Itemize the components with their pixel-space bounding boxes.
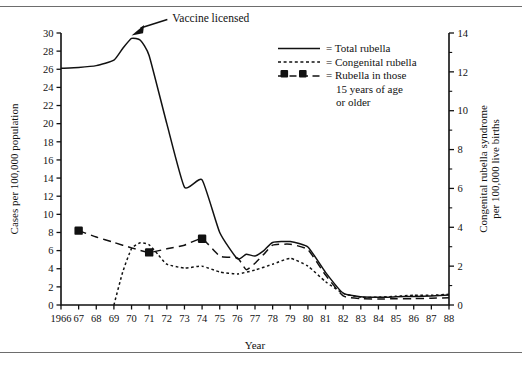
series-marker-square bbox=[198, 235, 206, 243]
chart-canvas: 1966676869707172737475767778798081828384… bbox=[0, 0, 522, 365]
legend-label: or older bbox=[336, 96, 371, 108]
x-tick-label: 80 bbox=[303, 313, 314, 324]
rubella-incidence-chart: 1966676869707172737475767778798081828384… bbox=[0, 0, 522, 365]
x-tick-labels: 1966676869707172737475767778798081828384… bbox=[51, 313, 455, 324]
x-tick-label: 73 bbox=[179, 313, 190, 324]
y-tick-label-left: 14 bbox=[43, 173, 54, 184]
legend-swatch-square bbox=[281, 70, 289, 78]
x-tick-label: 74 bbox=[197, 313, 208, 324]
legend-label: = Total rubella bbox=[326, 42, 391, 54]
x-tick-label: 88 bbox=[444, 313, 455, 324]
y-tick-label-left: 4 bbox=[48, 263, 54, 274]
y-tick-label-left: 16 bbox=[43, 155, 54, 166]
y-tick-label-left: 0 bbox=[48, 300, 53, 311]
y-tick-label-left: 26 bbox=[43, 64, 54, 75]
x-tick-label: 85 bbox=[391, 313, 402, 324]
x-tick-label: 83 bbox=[356, 313, 367, 324]
y-tick-label-right: 0 bbox=[458, 300, 463, 311]
x-tick-label: 75 bbox=[214, 313, 225, 324]
y-tick-label-left: 18 bbox=[43, 137, 54, 148]
marker-group bbox=[74, 226, 206, 256]
y-tick-label-left: 8 bbox=[48, 227, 53, 238]
y-tick-label-left: 10 bbox=[43, 209, 54, 220]
y-tick-label-left: 30 bbox=[43, 28, 54, 39]
x-tick-label: 70 bbox=[126, 313, 137, 324]
x-tick-label: 79 bbox=[285, 313, 296, 324]
y-tick-label-left: 20 bbox=[43, 118, 54, 129]
legend-label: = Rubella in those bbox=[326, 69, 407, 81]
series-marker-square bbox=[74, 226, 82, 234]
y-axis-title-left: Cases per 100,000 population bbox=[8, 103, 20, 234]
y-tick-label-right: 14 bbox=[458, 28, 469, 39]
y-tick-labels-right: 02468101214 bbox=[458, 28, 469, 311]
legend-label: = Congenital rubella bbox=[326, 56, 417, 68]
series-line-dotted bbox=[114, 243, 449, 305]
x-axis-title: Year bbox=[245, 339, 266, 351]
annotation-group: Vaccine licensed bbox=[132, 12, 250, 35]
x-tick-label: 72 bbox=[162, 313, 173, 324]
x-tick-label: 86 bbox=[408, 313, 419, 324]
x-tick-label: 1966 bbox=[51, 313, 72, 324]
series-marker-square bbox=[145, 248, 153, 256]
x-tick-label: 77 bbox=[250, 313, 261, 324]
legend-label: 15 years of age bbox=[336, 83, 403, 95]
annotation-label: Vaccine licensed bbox=[172, 12, 249, 24]
legend-swatch-square bbox=[299, 70, 307, 78]
legend: = Total rubella= Congenital rubella= Rub… bbox=[278, 42, 417, 108]
y-axis-title-right-line1: Congenital rubella syndrome bbox=[477, 105, 489, 233]
y-tick-label-right: 4 bbox=[458, 222, 464, 233]
x-tick-label: 84 bbox=[373, 313, 384, 324]
y-tick-labels-left: 024681012141618202224262830 bbox=[43, 28, 54, 311]
y-tick-label-left: 24 bbox=[43, 82, 54, 93]
y-tick-label-right: 12 bbox=[458, 67, 469, 78]
series-line-dashed-with-squares bbox=[79, 231, 449, 299]
x-tick-label: 67 bbox=[73, 313, 84, 324]
y-tick-label-right: 2 bbox=[458, 261, 463, 272]
y-tick-label-right: 10 bbox=[458, 105, 469, 116]
x-tick-label: 68 bbox=[91, 313, 102, 324]
x-tick-label: 87 bbox=[426, 313, 437, 324]
x-tick-label: 76 bbox=[232, 313, 243, 324]
x-tick-label: 81 bbox=[320, 313, 331, 324]
x-tick-label: 69 bbox=[109, 313, 120, 324]
annotation-arrow-head bbox=[132, 25, 145, 35]
y-tick-label-left: 22 bbox=[43, 100, 54, 111]
y-tick-label-right: 8 bbox=[458, 144, 463, 155]
annotation-arrow-shaft bbox=[141, 19, 168, 27]
x-tick-label: 82 bbox=[338, 313, 349, 324]
x-tick-label: 78 bbox=[267, 313, 278, 324]
y-tick-label-right: 6 bbox=[458, 183, 463, 194]
y-tick-label-left: 6 bbox=[48, 245, 53, 256]
y-tick-label-left: 2 bbox=[48, 282, 53, 293]
y-tick-label-left: 28 bbox=[43, 46, 54, 57]
x-tick-label: 71 bbox=[144, 313, 155, 324]
y-tick-label-left: 12 bbox=[43, 191, 54, 202]
y-axis-title-right-line2: per 100,000 live births bbox=[489, 119, 501, 219]
